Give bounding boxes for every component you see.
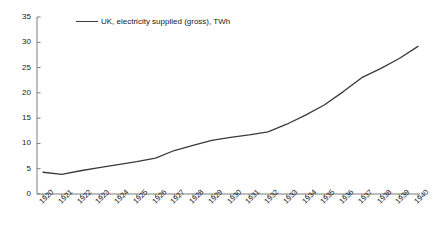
x-axis-tick-label: 1940 [413, 188, 430, 205]
x-axis-tick-labels: 1920192119221923192419251926192719281929… [0, 0, 438, 233]
x-axis-tick-label: 1936 [338, 188, 355, 205]
x-axis-tick-label: 1934 [301, 188, 318, 205]
x-axis-tick-label: 1929 [207, 188, 224, 205]
legend-line-swatch [76, 21, 98, 22]
x-axis-tick-label: 1935 [319, 188, 336, 205]
chart-container: 35302520151050 1920192119221923192419251… [0, 0, 438, 233]
chart-legend: UK, electricity supplied (gross), TWh [76, 17, 230, 26]
x-axis-tick-label: 1924 [113, 188, 130, 205]
x-axis-tick-label: 1932 [263, 188, 280, 205]
x-axis-tick-label: 1920 [38, 188, 55, 205]
x-axis-tick-label: 1930 [226, 188, 243, 205]
x-axis-tick-label: 1925 [132, 188, 149, 205]
x-axis-tick-label: 1928 [188, 188, 205, 205]
x-axis-tick-label: 1938 [376, 188, 393, 205]
x-axis-tick-label: 1927 [169, 188, 186, 205]
legend-label: UK, electricity supplied (gross), TWh [101, 17, 230, 26]
x-axis-tick-label: 1926 [151, 188, 168, 205]
x-axis-tick-label: 1922 [76, 188, 93, 205]
x-axis-tick-label: 1937 [357, 188, 374, 205]
x-axis-tick-label: 1931 [244, 188, 261, 205]
x-axis-tick-label: 1921 [57, 188, 74, 205]
x-axis-tick-label: 1923 [94, 188, 111, 205]
x-axis-tick-label: 1933 [282, 188, 299, 205]
x-axis-tick-label: 1939 [394, 188, 411, 205]
